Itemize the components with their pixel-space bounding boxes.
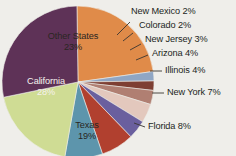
pie-slice-california[interactable]: [2, 6, 78, 97]
pie-slice-other-states[interactable]: [77, 6, 153, 82]
callout-label-arizona: Arizona 4%: [152, 48, 198, 59]
pie-chart: Other States 23% California 28% Texas 19…: [0, 0, 236, 156]
callout-label-florida: Florida 8%: [148, 121, 191, 132]
pie-chart-svg: [0, 0, 236, 156]
callout-label-new-york: New York 7%: [167, 87, 221, 98]
callout-label-colorado: Colorado 2%: [139, 20, 191, 31]
pie-slice-group: [2, 6, 154, 156]
callout-label-new-jersey: New Jersey 3%: [145, 34, 208, 45]
callout-label-illinois: Illinois 4%: [165, 65, 205, 76]
callout-label-new-mexico: New Mexico 2%: [131, 6, 196, 17]
